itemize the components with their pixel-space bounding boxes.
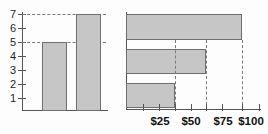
reference-line-38 bbox=[175, 40, 176, 110]
y-tick-label-4: 4 bbox=[2, 51, 16, 62]
x-tick-mark-6 bbox=[222, 104, 223, 111]
y-tick-mark-6 bbox=[18, 28, 26, 29]
y-axis-spine bbox=[22, 12, 23, 111]
x-tick-label-100: $100 bbox=[234, 115, 268, 127]
x-tick-mark-5 bbox=[206, 104, 207, 111]
x-tick-mark-2 bbox=[159, 104, 160, 111]
figure-container: 7 6 5 4 3 2 1 bbox=[0, 0, 268, 134]
x-tick-mark-4 bbox=[191, 104, 192, 111]
bar-2 bbox=[76, 14, 101, 111]
y-tick-mark-1 bbox=[18, 98, 26, 99]
y-tick-label-3: 3 bbox=[2, 65, 16, 76]
bar-top bbox=[126, 14, 242, 40]
y-tick-mark-3 bbox=[18, 70, 26, 71]
x-tick-label-50: $50 bbox=[176, 115, 206, 127]
y-tick-mark-4 bbox=[18, 56, 26, 57]
right-bar-chart: $25 $50 $75 $100 bbox=[120, 0, 268, 134]
y-tick-mark-2 bbox=[18, 84, 26, 85]
x-tick-mark-3 bbox=[175, 104, 176, 111]
reference-line-90 bbox=[242, 40, 243, 110]
x-tick-mark-8 bbox=[259, 104, 260, 111]
bar-1 bbox=[42, 42, 67, 111]
y-tick-label-7: 7 bbox=[2, 9, 16, 20]
x-tick-label-25: $25 bbox=[145, 115, 175, 127]
x-tick-mark-1 bbox=[143, 104, 144, 111]
y-tick-label-5: 5 bbox=[2, 37, 16, 48]
y-tick-label-1: 1 bbox=[2, 93, 16, 104]
y-tick-label-6: 6 bbox=[2, 23, 16, 34]
bar-bottom bbox=[126, 83, 175, 108]
x-tick-mark-7 bbox=[242, 104, 243, 111]
left-bar-chart: 7 6 5 4 3 2 1 bbox=[0, 0, 120, 134]
x-axis-baseline bbox=[126, 109, 261, 110]
bar-middle bbox=[126, 49, 206, 74]
y-tick-label-2: 2 bbox=[2, 79, 16, 90]
reference-line-62 bbox=[206, 40, 207, 110]
